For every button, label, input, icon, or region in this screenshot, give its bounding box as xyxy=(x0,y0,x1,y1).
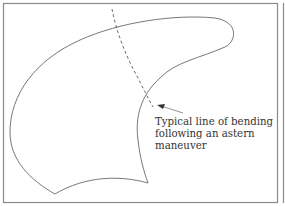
arrowhead-icon xyxy=(157,104,165,109)
bending-diagram: Typical line of bending following an ast… xyxy=(0,0,285,206)
annotation-leader xyxy=(161,106,183,113)
annotation-line-2: following an astern xyxy=(155,128,255,139)
annotation-line-1: Typical line of bending xyxy=(155,116,274,127)
annotation-line-3: maneuver xyxy=(155,140,207,151)
diagram-frame xyxy=(4,4,278,203)
